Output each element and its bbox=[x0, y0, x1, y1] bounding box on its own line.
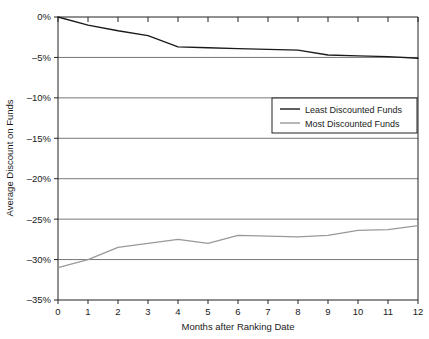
y-tick-label: –10% bbox=[27, 92, 52, 103]
x-tick-label: 8 bbox=[295, 306, 300, 317]
axis-lines bbox=[58, 17, 418, 300]
chart-container: 0%–5%–10%–15%–20%–25%–30%–35% 0123456789… bbox=[0, 0, 429, 339]
x-tick-label: 6 bbox=[235, 306, 240, 317]
y-tick-label: –30% bbox=[27, 254, 52, 265]
series-line-most-discounted-funds bbox=[58, 226, 418, 268]
y-tick-label: –15% bbox=[27, 133, 52, 144]
x-tick-label: 0 bbox=[55, 306, 60, 317]
line-chart: 0%–5%–10%–15%–20%–25%–30%–35% 0123456789… bbox=[0, 0, 429, 339]
y-tick-label: –5% bbox=[32, 52, 52, 63]
y-tick-label: –25% bbox=[27, 214, 52, 225]
x-tick-label: 7 bbox=[265, 306, 270, 317]
data-series bbox=[58, 17, 418, 268]
x-tick-label: 10 bbox=[353, 306, 364, 317]
x-tick-label: 4 bbox=[175, 306, 180, 317]
x-tick-label: 11 bbox=[383, 306, 393, 317]
x-tick-label: 9 bbox=[325, 306, 330, 317]
gridlines bbox=[58, 57, 418, 259]
x-tick-label: 5 bbox=[205, 306, 210, 317]
x-tick-label: 3 bbox=[145, 306, 150, 317]
x-tick-marks bbox=[58, 17, 418, 304]
x-tick-label: 2 bbox=[115, 306, 120, 317]
x-tick-labels: 0123456789101112 bbox=[55, 306, 423, 317]
legend-label-least-discounted-funds: Least Discounted Funds bbox=[305, 105, 403, 115]
x-axis-title: Months after Ranking Date bbox=[181, 321, 294, 332]
y-tick-label: –35% bbox=[27, 294, 52, 305]
y-tick-labels: 0%–5%–10%–15%–20%–25%–30%–35% bbox=[27, 11, 52, 305]
series-line-least-discounted-funds bbox=[58, 17, 418, 58]
legend-label-most-discounted-funds: Most Discounted Funds bbox=[305, 119, 400, 129]
y-tick-marks bbox=[54, 17, 58, 300]
y-tick-label: 0% bbox=[37, 11, 51, 22]
x-tick-label: 12 bbox=[413, 306, 424, 317]
x-tick-label: 1 bbox=[85, 306, 90, 317]
y-tick-label: –20% bbox=[27, 173, 52, 184]
y-axis-title: Average Discount on Funds bbox=[4, 99, 15, 216]
chart-legend: Least Discounted Funds Most Discounted F… bbox=[272, 98, 417, 133]
